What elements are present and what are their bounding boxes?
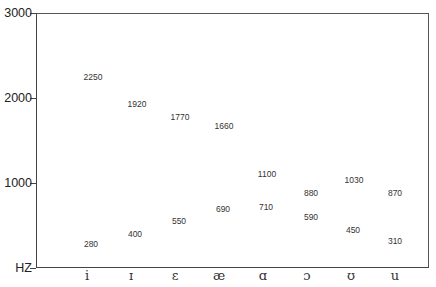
x-label-upsilon: ʊ <box>347 268 355 283</box>
x-label-i: i <box>85 268 89 283</box>
y-label-2000: 2000 <box>4 91 32 105</box>
f1-point-epsilon: 550 <box>172 216 186 226</box>
f1-point-open-o: 590 <box>304 212 318 222</box>
x-label-epsilon: ɛ <box>172 268 179 283</box>
y-label-1000: 1000 <box>4 176 32 190</box>
f1-point-script-a: 710 <box>259 202 273 212</box>
f1-point-upsilon: 450 <box>346 225 360 235</box>
f2-point-u: 870 <box>388 188 402 198</box>
f2-point-epsilon: 1770 <box>171 112 190 122</box>
f2-point-upsilon: 1030 <box>345 175 364 185</box>
f1-point-u: 310 <box>388 236 402 246</box>
f2-point-open-o: 880 <box>304 188 318 198</box>
y-label-hz: HZ <box>15 261 32 275</box>
x-label-open-o: ɔ <box>303 268 310 283</box>
f2-point-ash: 1660 <box>215 121 234 131</box>
plot-frame <box>36 13 429 268</box>
f2-point-script-a: 1100 <box>258 169 276 179</box>
f1-point-ash: 690 <box>216 204 230 214</box>
x-label-ash: æ <box>213 268 225 283</box>
x-label-script-a: ɑ <box>259 268 267 283</box>
f2-point-small-cap-i: 1920 <box>128 99 147 109</box>
x-label-small-cap-i: ɪ <box>129 268 133 283</box>
f1-point-small-cap-i: 400 <box>128 229 142 239</box>
y-label-3000: 3000 <box>4 6 32 20</box>
x-label-u: u <box>391 268 399 283</box>
f1-point-i: 280 <box>84 239 98 249</box>
f2-point-i: 2250 <box>84 72 103 82</box>
